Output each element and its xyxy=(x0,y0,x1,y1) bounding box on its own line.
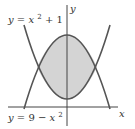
lower-curve-label-exp: 2 xyxy=(58,111,62,119)
upper-curve-label-lhs: y xyxy=(7,14,14,25)
region-diagram: y x y = x 2 + 1 y = 9 − x 2 xyxy=(0,0,135,129)
lower-curve-label: y = 9 − x 2 xyxy=(7,111,63,123)
upper-curve-label-rest: + 1 xyxy=(45,14,63,25)
lower-curve-label-lhs: y xyxy=(7,112,14,123)
upper-curve-label-exp: 2 xyxy=(37,13,41,21)
x-axis-label: x xyxy=(119,108,125,119)
y-axis-label: y xyxy=(69,3,76,14)
lower-curve-label-eq: = 9 − xyxy=(17,112,50,123)
upper-curve-label: y = x 2 + 1 xyxy=(7,10,63,25)
upper-curve-label-var: x xyxy=(28,14,34,25)
lower-curve-label-var: x xyxy=(50,112,56,123)
upper-curve-label-eq: = xyxy=(17,14,25,25)
